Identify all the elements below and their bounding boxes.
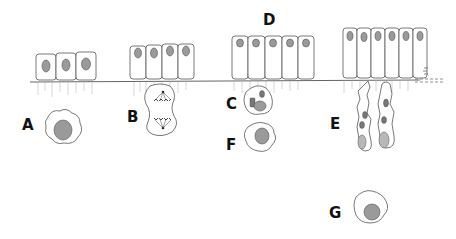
free-cell-a [45, 109, 81, 143]
low-columnar-epithelium [130, 44, 194, 79]
columnar-epithelium-d [232, 36, 314, 79]
label-a: A [22, 118, 34, 133]
membrane-fibers [38, 80, 408, 97]
label-b: B [127, 110, 138, 125]
cell-diagram: A B C D E F G [0, 0, 456, 239]
label-c: C [226, 97, 237, 112]
free-cells-e [357, 81, 394, 151]
free-cell-g [354, 191, 388, 223]
label-e: E [330, 117, 340, 132]
cuboidal-epithelium [36, 52, 96, 80]
free-cell-b-mitosis [145, 84, 177, 136]
diagram-drawing [0, 0, 456, 239]
label-f: F [226, 138, 236, 153]
label-d: D [263, 13, 275, 28]
free-cell-f [244, 123, 275, 152]
label-g: G [329, 206, 341, 221]
tall-columnar-epithelium [343, 28, 428, 78]
free-cell-c [244, 86, 272, 115]
